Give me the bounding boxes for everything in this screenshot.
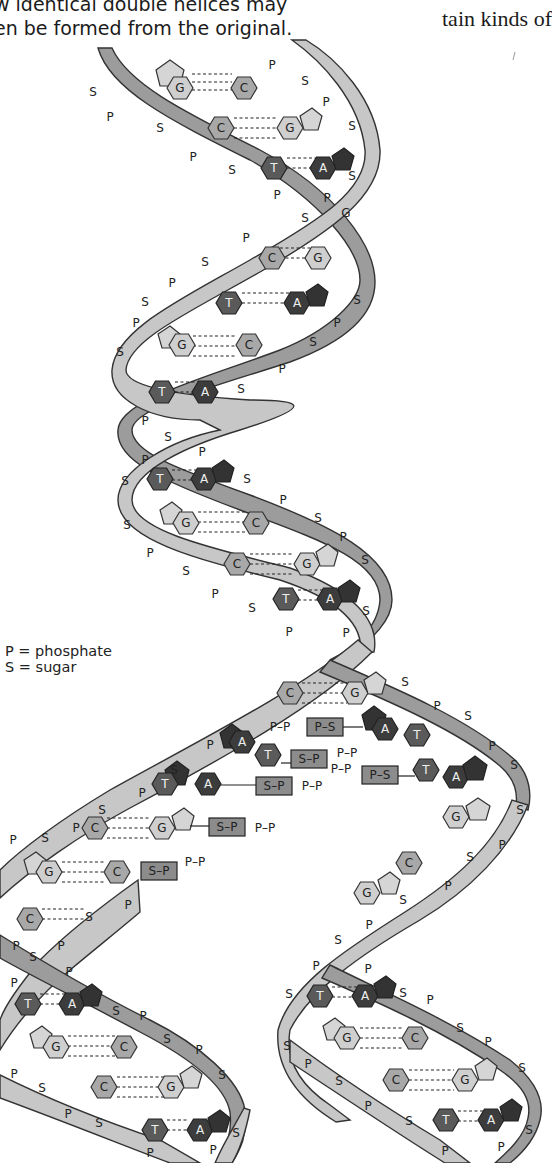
svg-text:C: C (120, 1040, 128, 1054)
svg-text:P: P (339, 530, 346, 544)
svg-text:A: A (196, 1123, 205, 1137)
right-base-pair-g-c: G C (323, 1018, 428, 1049)
svg-text:P: P (342, 626, 349, 640)
svg-text:G: G (157, 821, 166, 835)
svg-text:G: G (175, 81, 184, 95)
svg-text:C: C (26, 912, 34, 926)
svg-text:P: P (488, 739, 495, 753)
svg-text:S–P: S–P (299, 752, 320, 766)
svg-text:P: P (322, 95, 329, 109)
svg-text:P: P (10, 976, 17, 990)
svg-text:S: S (228, 163, 236, 177)
svg-text:A: A (293, 296, 302, 310)
svg-text:P: P (312, 959, 319, 973)
svg-text:T: T (224, 296, 233, 310)
svg-text:P: P (498, 838, 505, 852)
svg-text:T: T (150, 1123, 159, 1137)
svg-text:G: G (460, 1073, 469, 1087)
svg-text:P: P (146, 546, 153, 560)
svg-text:P: P (139, 1009, 146, 1023)
svg-text:P: P (365, 918, 372, 932)
right-base-pair-t-a-2: T A (433, 1099, 522, 1131)
svg-text:P: P (426, 993, 433, 1007)
svg-text:S: S (456, 1021, 464, 1035)
left-base-pair-g-c-2: G C (30, 1026, 137, 1058)
base-pair-t-a-5: T A (216, 284, 328, 314)
svg-text:S: S (361, 553, 369, 567)
svg-text:S: S (95, 1116, 103, 1130)
svg-text:S: S (156, 121, 164, 135)
svg-text:S: S (29, 950, 37, 964)
svg-text:A: A (319, 161, 328, 175)
svg-text:P: P (106, 110, 113, 124)
svg-text:S: S (518, 1061, 526, 1075)
svg-text:C: C (91, 821, 99, 835)
svg-text:A: A (68, 997, 77, 1011)
svg-text:S: S (285, 987, 293, 1001)
svg-text:P: P (64, 1107, 71, 1121)
svg-text:P: P (364, 1099, 371, 1113)
svg-text:P–P: P–P (337, 746, 357, 760)
svg-text:C: C (268, 251, 276, 265)
svg-text:P: P (441, 1144, 448, 1158)
svg-text:S: S (89, 85, 97, 99)
svg-text:G: G (166, 1080, 175, 1094)
svg-text:P: P (141, 414, 148, 428)
svg-text:P: P (268, 58, 275, 72)
svg-text:P–P: P–P (270, 720, 290, 734)
svg-text:P: P (273, 188, 280, 202)
free-nucleotide-a-right: A (443, 756, 487, 788)
svg-text:P–S: P–S (315, 720, 336, 734)
svg-text:P: P (209, 1143, 216, 1157)
svg-text:S: S (112, 1004, 120, 1018)
svg-text:S: S (170, 763, 178, 777)
svg-text:S: S (123, 518, 131, 532)
svg-text:T: T (263, 748, 272, 762)
svg-text:T: T (160, 777, 169, 791)
svg-text:S: S (38, 1081, 46, 1095)
svg-text:P: P (189, 150, 196, 164)
svg-text:A: A (200, 472, 209, 486)
svg-text:A: A (381, 722, 390, 736)
svg-text:A: A (201, 385, 210, 399)
svg-text:C: C (233, 557, 241, 571)
svg-text:P–S: P–S (370, 768, 391, 782)
svg-text:T: T (441, 1113, 450, 1127)
svg-text:S: S (283, 1039, 291, 1053)
svg-text:C: C (286, 686, 294, 700)
svg-text:P: P (285, 625, 292, 639)
svg-text:C: C (245, 338, 253, 352)
svg-text:C: C (217, 121, 225, 135)
svg-text:P: P (211, 587, 218, 601)
svg-text:P: P (364, 962, 371, 976)
svg-text:T: T (421, 763, 430, 777)
svg-text:C: C (405, 856, 413, 870)
left-base-pair-t-a-2: T A (142, 1110, 230, 1141)
svg-text:P: P (304, 1057, 311, 1071)
svg-text:A: A (204, 777, 213, 791)
svg-text:P: P (484, 1035, 491, 1049)
svg-text:S: S (237, 382, 245, 396)
svg-text:S: S (232, 1126, 240, 1140)
svg-text:P: P (65, 965, 72, 979)
svg-text:S: S (401, 675, 409, 689)
svg-text:A: A (326, 592, 335, 606)
svg-text:S: S (309, 335, 317, 349)
svg-text:T: T (315, 989, 324, 1003)
svg-text:S: S (464, 709, 472, 723)
svg-text:P: P (72, 821, 79, 835)
svg-text:S: S (314, 511, 322, 525)
svg-text:T: T (23, 997, 32, 1011)
base-pair-t-a-3: T A (261, 148, 354, 179)
svg-text:P: P (132, 316, 139, 330)
svg-text:T: T (157, 385, 166, 399)
free-nucleotide-t-1: T (404, 724, 430, 746)
svg-text:P: P (497, 1140, 504, 1154)
svg-text:S: S (182, 564, 190, 578)
svg-text:P: P (333, 316, 340, 330)
svg-text:A: A (361, 989, 370, 1003)
right-partial-g: G (354, 872, 400, 904)
base-pair-g-c-1: G C (156, 60, 257, 99)
svg-text:S: S (201, 255, 209, 269)
